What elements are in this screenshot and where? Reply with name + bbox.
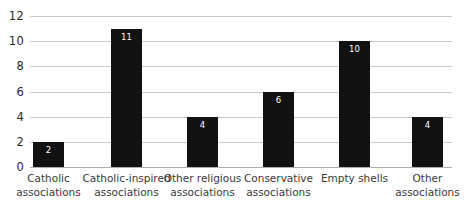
bar-value-label-3: 4 bbox=[187, 120, 218, 130]
bar-value-label-6: 4 bbox=[412, 120, 443, 130]
bar-6: 4 bbox=[412, 117, 443, 167]
gridline-8 bbox=[30, 66, 452, 67]
bar-value-label-4: 6 bbox=[263, 95, 294, 105]
category-label-line: associations bbox=[224, 186, 334, 200]
bar-1: 2 bbox=[33, 142, 64, 167]
bar-5: 10 bbox=[339, 41, 370, 167]
y-tick-label-2: 2 bbox=[0, 135, 24, 149]
gridline-6 bbox=[30, 92, 452, 93]
y-tick-label-4: 4 bbox=[0, 110, 24, 124]
y-tick-label-6: 6 bbox=[0, 85, 24, 99]
y-tick-label-8: 8 bbox=[0, 59, 24, 73]
gridline-0 bbox=[30, 167, 452, 168]
bar-value-label-2: 11 bbox=[111, 32, 142, 42]
gridline-10 bbox=[30, 41, 452, 42]
y-tick-label-10: 10 bbox=[0, 34, 24, 48]
gridline-4 bbox=[30, 117, 452, 118]
category-label-line: associations bbox=[373, 186, 464, 200]
y-tick-label-12: 12 bbox=[0, 9, 24, 23]
gridline-12 bbox=[30, 16, 452, 17]
bar-3: 4 bbox=[187, 117, 218, 167]
bar-value-label-5: 10 bbox=[339, 44, 370, 54]
bar-4: 6 bbox=[263, 92, 294, 168]
bar-value-label-1: 2 bbox=[33, 145, 64, 155]
category-label-line: Other bbox=[373, 172, 464, 186]
gridline-2 bbox=[30, 142, 452, 143]
category-label-6: Otherassociations bbox=[373, 172, 464, 199]
bar-2: 11 bbox=[111, 29, 142, 167]
